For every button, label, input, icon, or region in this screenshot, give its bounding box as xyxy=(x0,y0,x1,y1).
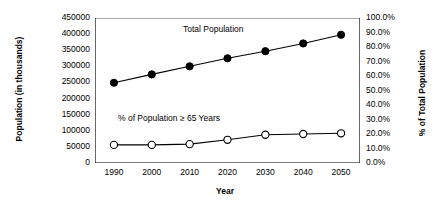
data-point-2 xyxy=(148,141,155,148)
data-point-1 xyxy=(186,63,193,70)
data-point-2 xyxy=(186,141,193,148)
annotation-percent-65-plus: % of Population ≥ 65 Years xyxy=(118,113,220,123)
y-axis-right-tick-label: 100.0% xyxy=(366,13,395,22)
y-axis-left-tick-label: 200000 xyxy=(20,94,90,103)
y-axis-left-tick-label: 50000 xyxy=(20,142,90,151)
y-axis-left-tick-label: 150000 xyxy=(20,110,90,119)
plot-area xyxy=(95,18,360,163)
y-axis-right-tick-label: 70.0% xyxy=(366,57,390,66)
y-axis-right-tick-label: 0.0% xyxy=(366,158,385,167)
x-axis-title: Year xyxy=(80,186,370,196)
data-point-1 xyxy=(300,40,307,47)
x-axis-tick-label: 2040 xyxy=(283,167,323,177)
data-point-2 xyxy=(337,130,344,137)
x-axis-tick-label: 2030 xyxy=(245,167,285,177)
y-axis-right-tick-label: 30.0% xyxy=(366,115,390,124)
data-point-1 xyxy=(224,55,231,62)
y-axis-left-tick-label: 250000 xyxy=(20,77,90,86)
x-axis-tick-label: 2000 xyxy=(132,167,172,177)
x-axis-tick-label: 1990 xyxy=(94,167,134,177)
data-point-1 xyxy=(148,71,155,78)
x-axis-tick-label: 2010 xyxy=(170,167,210,177)
y-axis-right-tick-label: 10.0% xyxy=(366,144,390,153)
data-point-1 xyxy=(262,48,269,55)
data-point-1 xyxy=(110,79,117,86)
y-axis-right-tick-label: 60.0% xyxy=(366,71,390,80)
y-axis-right-tick-label: 20.0% xyxy=(366,129,390,138)
x-axis-tick-labels: 1990200020102020203020402050 xyxy=(60,167,400,181)
y-axis-right-tick-label: 80.0% xyxy=(366,42,390,51)
y-axis-left-tick-label: 100000 xyxy=(20,126,90,135)
y-axis-right-tick-label: 50.0% xyxy=(366,86,390,95)
y-axis-left-tick-label: 450000 xyxy=(20,13,90,22)
data-point-2 xyxy=(224,136,231,143)
plot-svg xyxy=(95,18,360,163)
y-axis-left-tick-label: 350000 xyxy=(20,45,90,54)
annotation-total-population: Total Population xyxy=(183,24,244,34)
x-axis-tick-label: 2020 xyxy=(208,167,248,177)
y-axis-left-tick-label: 0 xyxy=(20,158,90,167)
y-axis-right-tick-label: 40.0% xyxy=(366,100,390,109)
data-point-2 xyxy=(262,131,269,138)
x-axis-tick-label: 2050 xyxy=(321,167,361,177)
y-axis-right-tick-label: 90.0% xyxy=(366,28,390,37)
y-axis-left-tick-label: 400000 xyxy=(20,29,90,38)
data-point-2 xyxy=(300,130,307,137)
data-point-2 xyxy=(110,141,117,148)
chart-container: Population (in thousands) % of Total Pop… xyxy=(0,0,440,203)
y-axis-left-tick-label: 300000 xyxy=(20,61,90,70)
data-point-1 xyxy=(337,31,344,38)
